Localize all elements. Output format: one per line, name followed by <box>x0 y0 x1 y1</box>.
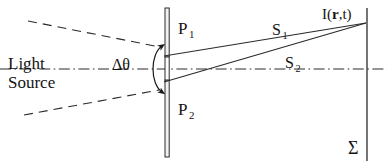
source-ray-upper <box>28 21 160 47</box>
diffraction-diagram: Light Source Δθ P1 P2 S1 S2 I(r,t) Σ <box>0 0 387 167</box>
aperture-point-p2-label: P2 <box>178 100 194 121</box>
s1-letter: S <box>272 21 281 38</box>
screen-sigma-label: Σ <box>348 138 358 159</box>
light-source-label-line1: Light <box>8 54 55 73</box>
ray-s1-label: S1 <box>272 21 288 41</box>
p2-subscript: 2 <box>187 109 194 121</box>
s2-letter: S <box>285 54 294 71</box>
p1-subscript: 1 <box>187 28 194 40</box>
ray-s2-label: S2 <box>285 54 301 74</box>
delta-theta-label: Δθ <box>112 56 130 74</box>
barrier-lower-segment <box>165 80 169 157</box>
field-point-label: I(r,t) <box>322 6 352 23</box>
s2-subscript: 2 <box>294 63 301 74</box>
slit-aperture <box>165 57 169 80</box>
s1-subscript: 1 <box>281 30 288 41</box>
light-source-label: Light Source <box>8 54 55 92</box>
field-point-vector-r: r <box>332 6 339 22</box>
aperture-point-p1-label: P1 <box>178 19 194 40</box>
field-point-prefix: I( <box>322 6 332 22</box>
source-ray-lower <box>24 90 159 115</box>
barrier-upper-segment <box>165 8 169 57</box>
light-source-label-line2: Source <box>8 73 55 92</box>
field-point-suffix: ,t) <box>339 6 352 22</box>
